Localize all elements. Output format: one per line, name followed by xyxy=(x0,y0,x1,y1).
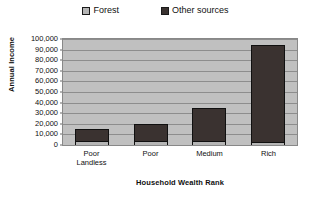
bar-slot xyxy=(122,39,181,145)
bar-segment-forest xyxy=(193,141,225,145)
legend-label-other-sources: Other sources xyxy=(172,6,229,15)
bar-chart: Forest Other sources Annual Income 010,0… xyxy=(0,0,311,198)
bar-slot xyxy=(239,39,298,145)
stacked-bar[interactable] xyxy=(134,124,168,145)
bar-slot xyxy=(63,39,122,145)
y-axis-tick: 60,000 xyxy=(35,78,58,86)
x-axis-tick-line: Rich xyxy=(239,149,298,158)
bar-segment-other-sources xyxy=(252,46,284,142)
y-axis-tick: 20,000 xyxy=(35,120,58,128)
y-axis-title: Annual Income xyxy=(7,30,16,100)
bar-segment-other-sources xyxy=(193,109,225,141)
bar-series-group xyxy=(63,39,297,145)
y-axis-tick: 100,000 xyxy=(31,35,58,43)
y-axis-tick: 50,000 xyxy=(35,88,58,96)
y-axis-tick: 30,000 xyxy=(35,109,58,117)
x-axis-tick-line: Poor xyxy=(121,149,180,158)
x-axis-title: Household Wealth Rank xyxy=(60,178,300,187)
x-axis-tick-line: Landless xyxy=(62,158,121,167)
legend-label-forest: Forest xyxy=(93,6,119,15)
legend-item-forest: Forest xyxy=(82,6,119,15)
y-axis-tick: 0 xyxy=(54,141,58,149)
plot-area xyxy=(62,38,298,146)
legend-item-other-sources: Other sources xyxy=(161,6,229,15)
bar-segment-other-sources xyxy=(76,130,108,141)
chart-legend: Forest Other sources xyxy=(0,6,311,15)
stacked-bar[interactable] xyxy=(75,129,109,145)
x-axis-tick: PoorLandless xyxy=(62,149,121,167)
legend-swatch-other-sources xyxy=(161,7,169,15)
x-axis-tick: Medium xyxy=(180,149,239,167)
y-axis-tick: 90,000 xyxy=(35,46,58,54)
x-axis-tick: Poor xyxy=(121,149,180,167)
y-axis-tick: 10,000 xyxy=(35,131,58,139)
legend-swatch-forest xyxy=(82,7,90,15)
bar-segment-forest xyxy=(252,142,284,145)
x-axis-tick-line: Poor xyxy=(62,149,121,158)
bar-segment-other-sources xyxy=(135,125,167,141)
y-axis-tick: 70,000 xyxy=(35,67,58,75)
y-axis-tick-labels: 010,00020,00030,00040,00050,00060,00070,… xyxy=(18,38,60,146)
bar-segment-forest xyxy=(135,141,167,145)
bar-slot xyxy=(180,39,239,145)
bar-segment-forest xyxy=(76,141,108,145)
y-axis-tick: 40,000 xyxy=(35,99,58,107)
x-axis-tick-line: Medium xyxy=(180,149,239,158)
stacked-bar[interactable] xyxy=(251,45,285,145)
stacked-bar[interactable] xyxy=(192,108,226,145)
y-axis-tick: 80,000 xyxy=(35,56,58,64)
x-axis-tick-labels: PoorLandlessPoorMediumRich xyxy=(62,149,298,167)
x-axis-tick: Rich xyxy=(239,149,298,167)
